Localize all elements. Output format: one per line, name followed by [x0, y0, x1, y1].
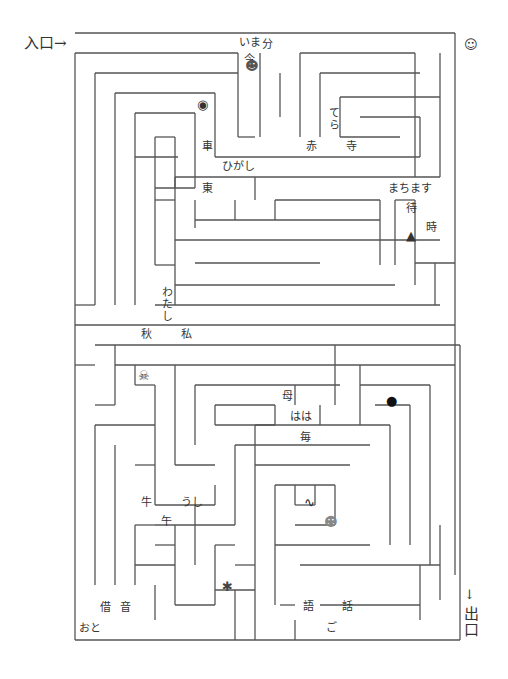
- maze-label: 借: [100, 602, 111, 613]
- maze-label: ひがし: [222, 161, 255, 172]
- maze-walls: [0, 0, 508, 679]
- entrance-label: 入口→: [24, 36, 67, 51]
- maze-label: 分: [262, 39, 273, 50]
- maze-label: ご: [326, 622, 337, 633]
- maze-label: うし: [181, 497, 203, 508]
- maze-label: 車: [202, 141, 213, 152]
- demon-face-icon: ☻: [245, 59, 259, 72]
- maze-label: 時: [426, 222, 437, 233]
- maze-label: 東: [202, 183, 213, 194]
- snake-icon: ∿: [304, 496, 315, 509]
- maze-label: 私: [181, 329, 192, 340]
- maze-label: 音: [120, 602, 131, 613]
- maze-label: 赤: [306, 141, 317, 152]
- maze-label: おと: [79, 623, 101, 634]
- bomb-icon: ●: [386, 394, 397, 407]
- maze-label: 寺: [346, 141, 357, 152]
- maze-label: 話: [342, 601, 353, 612]
- maze-label: 待: [406, 203, 417, 214]
- maze-label: 毎: [300, 432, 311, 443]
- umbrella-ghost-icon: ▲: [406, 229, 416, 242]
- eye-creature-icon: ◉: [197, 98, 208, 111]
- lantern-ghost-icon: ✱: [222, 580, 233, 593]
- maze-label: てら: [328, 107, 339, 131]
- maze-label: 語: [303, 601, 314, 612]
- exit-arrow: ↓: [464, 588, 475, 601]
- skull-crossbones-icon: ☠: [138, 369, 150, 382]
- maze-label: 秋: [141, 329, 152, 340]
- maze-label: はは: [290, 411, 312, 422]
- maze-label: 母: [282, 391, 293, 402]
- maze-label: まちます: [388, 183, 432, 194]
- monster-face-icon: ☻: [324, 515, 338, 528]
- maze-label: 牛: [141, 497, 152, 508]
- maze-label: 午: [161, 516, 172, 527]
- exit-label: 出口: [462, 606, 477, 638]
- maze-label: いま: [239, 37, 261, 48]
- old-woman-icon: ☺: [464, 38, 478, 51]
- maze-label: わたし: [161, 286, 172, 322]
